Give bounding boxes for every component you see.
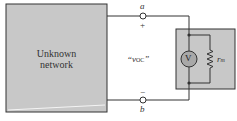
junction-dot-bottom (187, 81, 190, 84)
resistor-subscript: m (221, 57, 225, 63)
terminal-b-label: b (140, 105, 145, 114)
network-label-line1: Unknown (6, 48, 107, 59)
network-label-line2: network (6, 59, 107, 70)
network-label: Unknown network (6, 48, 107, 70)
resistor-label: rm (217, 55, 225, 64)
terminal-b-polarity: − (140, 88, 145, 97)
voltage-label: “vOC” (127, 55, 149, 64)
terminal-b (140, 97, 146, 103)
voltage-symbol: “v (127, 54, 136, 64)
voltage-close-quote: ” (144, 54, 149, 64)
terminal-a (140, 13, 146, 19)
junction-dot-top (187, 33, 190, 36)
terminal-a-label: a (140, 2, 145, 11)
voltmeter-symbol: V (185, 54, 192, 63)
terminal-a-polarity: + (140, 21, 145, 30)
